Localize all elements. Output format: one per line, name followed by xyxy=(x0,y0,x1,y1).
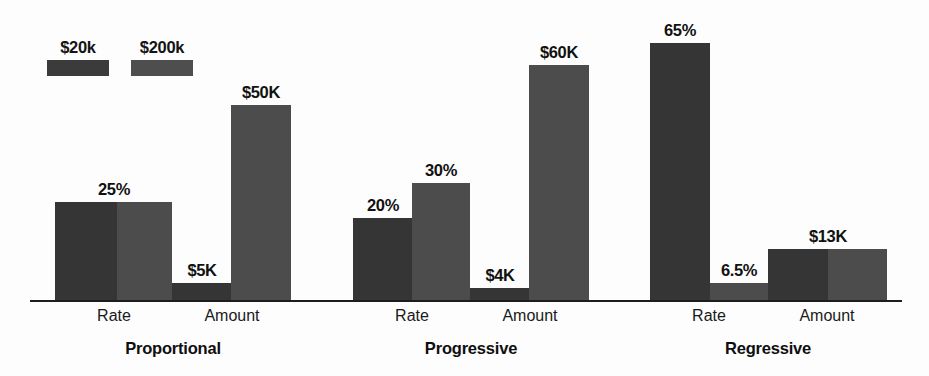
bar-proportional-rate-20k[interactable] xyxy=(55,202,117,300)
bar-label-regressive-rate-200k: 6.5% xyxy=(699,261,779,279)
tick-label-proportional-amount: Amount xyxy=(192,307,272,325)
bar-regressive-rate-200k[interactable] xyxy=(710,283,768,300)
tick-label-regressive-rate: Rate xyxy=(669,307,749,325)
tick-label-regressive-amount: Amount xyxy=(787,307,867,325)
bar-label-proportional-amount-200k: $50K xyxy=(221,83,301,101)
bar-label-proportional-amount-20k: $5K xyxy=(162,261,242,279)
bar-regressive-amount-20k[interactable] xyxy=(768,249,828,300)
bar-label-regressive-amount: $13K xyxy=(788,227,868,245)
group-title-progressive: Progressive xyxy=(411,339,531,358)
bar-progressive-rate-20k[interactable] xyxy=(353,218,412,300)
bar-label-regressive-rate-20k: 65% xyxy=(640,21,720,39)
group-title-proportional: Proportional xyxy=(113,339,233,358)
bar-chart: $20k $200k 25% $5K $50K 20% 30% $4K $60K… xyxy=(0,0,929,376)
bar-label-progressive-amount-20k: $4K xyxy=(460,266,540,284)
bar-progressive-amount-20k[interactable] xyxy=(470,288,529,300)
group-title-regressive: Regressive xyxy=(708,339,828,358)
bar-label-progressive-amount-200k: $60K xyxy=(519,43,599,61)
bar-label-progressive-rate-200k: 30% xyxy=(401,161,481,179)
bar-label-progressive-rate-20k: 20% xyxy=(343,196,423,214)
bar-regressive-amount-200k[interactable] xyxy=(828,249,887,300)
plot-area: 25% $5K $50K 20% 30% $4K $60K 65% 6.5% $… xyxy=(0,0,929,301)
bar-proportional-rate-200k[interactable] xyxy=(117,202,172,300)
bar-progressive-amount-200k[interactable] xyxy=(529,65,589,300)
axis-baseline xyxy=(30,300,902,302)
tick-label-progressive-rate: Rate xyxy=(372,307,452,325)
tick-label-progressive-amount: Amount xyxy=(490,307,570,325)
bar-label-proportional-rate: 25% xyxy=(74,180,154,198)
tick-label-proportional-rate: Rate xyxy=(74,307,154,325)
bar-proportional-amount-20k[interactable] xyxy=(172,283,231,300)
